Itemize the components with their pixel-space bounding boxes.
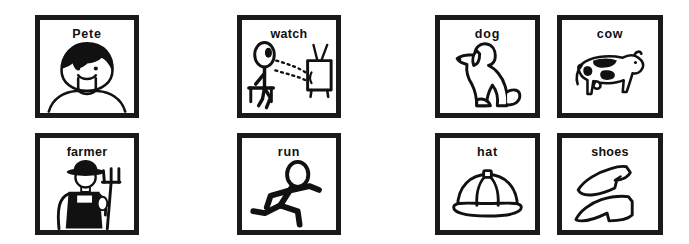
running-stick-figure-icon [242,159,336,231]
card-label: dog [475,28,500,41]
card-label: hat [477,146,498,159]
card-label: shoes [591,146,629,159]
card-label: Pete [72,28,102,41]
card-pete[interactable]: Pete [35,15,139,118]
spotted-cow-icon [562,41,658,114]
boy-face-icon [40,41,134,114]
baseball-cap-icon [440,159,535,231]
farmer-with-pitchfork-icon [40,159,134,231]
card-shoes[interactable]: shoes [557,133,663,235]
person-watching-television-icon [242,41,336,114]
card-cow[interactable]: cow [557,15,663,118]
picture-symbol-card-sheet: Pete farmer [0,0,689,244]
card-label: watch [271,28,308,41]
pair-of-shoes-icon [562,159,658,231]
card-dog[interactable]: dog [435,15,540,118]
card-farmer[interactable]: farmer [35,133,139,235]
card-hat[interactable]: hat [435,133,540,235]
card-label: run [278,146,301,159]
card-label: cow [597,28,624,41]
card-watch[interactable]: watch [237,15,341,118]
card-run[interactable]: run [237,133,341,235]
card-label: farmer [67,146,108,159]
sitting-dog-icon [440,41,535,114]
